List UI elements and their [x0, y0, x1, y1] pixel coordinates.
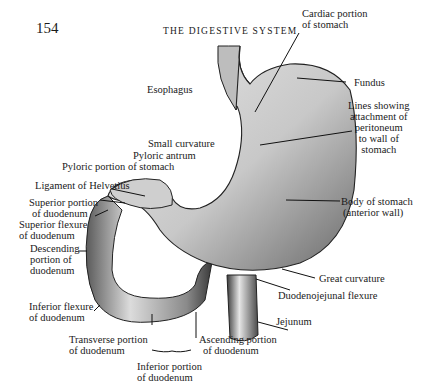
- label-inferior-flexure: Inferior flexure of duodenum: [29, 301, 93, 323]
- label-fundus: Fundus: [354, 77, 385, 88]
- label-transverse-portion: Transverse portion of duodenum: [69, 334, 148, 356]
- label-duodenojejunal-flexure: Duodenojejunal flexure: [278, 290, 377, 301]
- label-pyloric-portion: Pyloric portion of stomach: [62, 161, 174, 172]
- label-superior-flexure: Superior flexure of duodenum: [19, 219, 88, 241]
- label-pyloric-antrum: Pyloric antrum: [133, 150, 196, 161]
- stomach-illustration: [0, 0, 432, 385]
- label-esophagus: Esophagus: [147, 84, 193, 95]
- label-inferior-portion: Inferior portion of duodenum: [137, 361, 202, 383]
- label-cardiac-portion: Cardiac portion of stomach: [302, 8, 368, 30]
- label-superior-portion: Superior portion of duodenum: [29, 197, 98, 219]
- label-jejunum: Jejunum: [276, 316, 312, 327]
- label-great-curvature: Great curvature: [319, 273, 385, 284]
- label-descending-portion: Descending portion of duodenum: [30, 243, 80, 276]
- label-peritoneum-lines: Lines showing attachment of peritoneum t…: [348, 100, 410, 155]
- label-ascending-portion: Ascending portion of duodenum: [199, 334, 277, 356]
- label-body-of-stomach: Body of stomach (anterior wall): [341, 196, 413, 218]
- jejunum-shape: [227, 275, 258, 341]
- label-ligament-of-helvetius: Ligament of Helvetius: [35, 180, 129, 191]
- label-small-curvature: Small curvature: [148, 138, 215, 149]
